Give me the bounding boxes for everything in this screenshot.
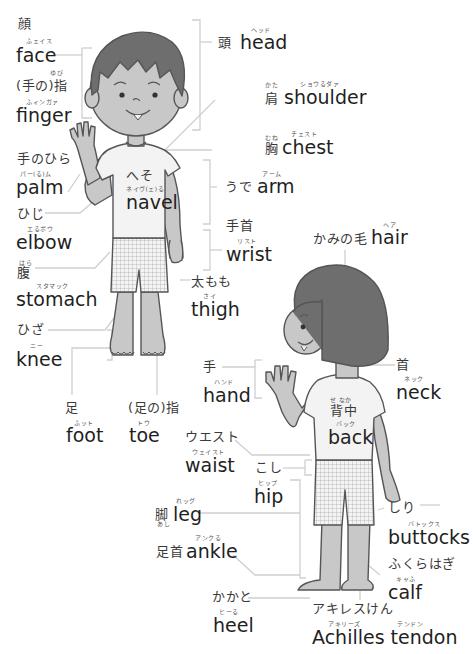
label-palm-en: palm xyxy=(16,178,64,197)
label-leg-jp: 脚 xyxy=(155,508,169,521)
label-waist-jp: ウエスト xyxy=(185,430,239,443)
label-chest-jp: 胸 xyxy=(265,142,279,155)
label-hip-en: hip xyxy=(254,487,283,506)
label-foot-jp: 足 xyxy=(65,401,79,414)
label-hair-jp: かみの毛 xyxy=(313,232,367,245)
label-back-en: back xyxy=(328,428,373,447)
label-elbow-jp: ひじ xyxy=(17,207,44,220)
label-hand-en: hand xyxy=(203,386,251,405)
label-neck-jp: 首 xyxy=(396,358,410,371)
label-finger-jp-ruby: ゆび xyxy=(50,70,63,76)
label-buttocks-en: buttocks xyxy=(388,528,470,547)
label-shoulder-jp-ruby: かた xyxy=(265,82,278,88)
label-thigh-en: thigh xyxy=(191,300,240,319)
label-toe-en: toe xyxy=(129,426,160,445)
label-chest-en: chest xyxy=(282,138,334,157)
label-hand-jp: 手 xyxy=(203,360,217,373)
label-thigh-jp: 太もも xyxy=(191,275,232,288)
label-hip-jp: こし xyxy=(255,461,282,474)
label-heel-jp: かかと xyxy=(212,590,253,603)
label-navel-jp: へそ xyxy=(126,169,153,182)
label-head-jp: 頭 xyxy=(218,36,232,49)
label-back-jp: 背中 xyxy=(330,404,357,417)
label-palm-jp: 手のひら xyxy=(17,152,71,165)
label-knee-en: knee xyxy=(16,350,62,369)
label-toe-jp: (足の)指 xyxy=(128,401,180,414)
label-achilles-jp: アキレスけん xyxy=(312,602,393,615)
label-face-en: face xyxy=(16,46,56,65)
label-finger-en: finger xyxy=(16,106,72,125)
label-wrist-en: wrist xyxy=(226,245,272,264)
label-ankle-jp: 足首 xyxy=(156,545,183,558)
label-calf-jp: ふくらはぎ xyxy=(388,557,456,570)
label-heel-en: heel xyxy=(213,616,254,635)
label-waist-en: waist xyxy=(185,456,235,475)
label-navel-en: navel xyxy=(126,193,178,212)
label-foot-en: foot xyxy=(66,426,103,445)
label-stomach-en: stomach xyxy=(16,290,98,309)
label-face-jp: 顔 xyxy=(18,17,32,30)
label-finger-jp: (手の)指 xyxy=(16,79,68,92)
label-hair-en: hair xyxy=(371,228,408,247)
label-arm-en: arm xyxy=(257,177,295,196)
label-shoulder-jp: 肩 xyxy=(265,92,279,105)
label-arm-jp: うで xyxy=(225,180,252,193)
label-elbow-en: elbow xyxy=(16,233,72,252)
label-buttocks-jp: しり xyxy=(388,501,415,514)
body-parts-diagram: 顔 ふェイス face ゆび (手の)指 ふィンガァ finger 手のひら パ… xyxy=(0,0,473,654)
label-wrist-jp: 手首 xyxy=(226,219,253,232)
label-shoulder-en: shoulder xyxy=(284,88,366,107)
label-knee-jp: ひざ xyxy=(17,323,44,336)
label-ankle-en: ankle xyxy=(186,542,238,561)
label-neck-en: neck xyxy=(396,383,441,402)
label-head-en: head xyxy=(240,33,287,52)
label-stomach-jp: 腹 xyxy=(17,266,31,279)
label-achilles-en: Achilles tendon xyxy=(312,628,458,647)
label-leg-en: leg xyxy=(173,505,202,524)
label-calf-en: calf xyxy=(388,583,422,602)
